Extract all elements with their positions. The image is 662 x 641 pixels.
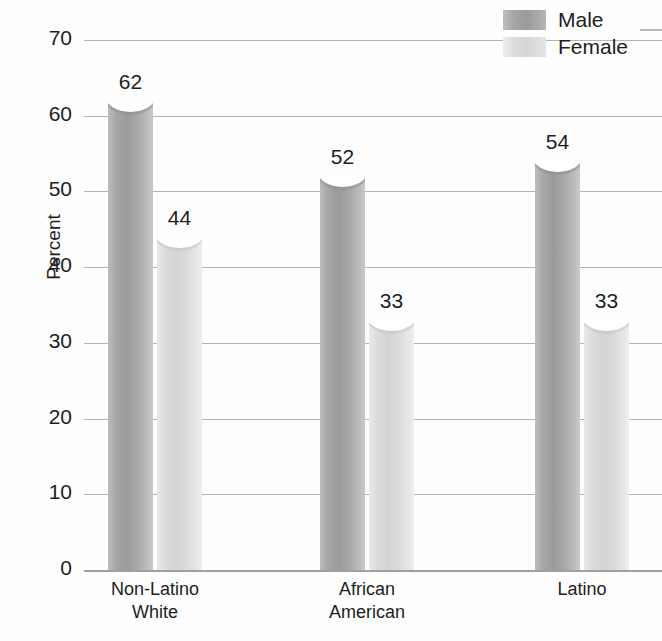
legend: Male Female bbox=[503, 6, 653, 60]
bar-male-2[interactable]: 54 bbox=[535, 161, 580, 570]
bar-value-label: 62 bbox=[119, 70, 142, 94]
bar-male-1[interactable]: 52 bbox=[320, 176, 365, 570]
legend-swatch-male-icon bbox=[503, 10, 546, 30]
bar-value-label: 52 bbox=[331, 145, 354, 169]
bar-cap bbox=[369, 320, 414, 344]
bar-body bbox=[157, 246, 202, 570]
legend-swatch-female-icon bbox=[503, 37, 546, 57]
bar-chart: Percent 706050403020100 624452335433 Non… bbox=[0, 0, 662, 641]
bar-body bbox=[320, 185, 365, 570]
y-axis-tick-label: 60 bbox=[26, 102, 72, 126]
bar-female-0[interactable]: 44 bbox=[157, 237, 202, 570]
y-axis-tick-label: 40 bbox=[26, 253, 72, 277]
x-axis-category-label: Non-Latino White bbox=[75, 578, 235, 624]
plot-area: 624452335433 bbox=[84, 40, 662, 570]
bar-value-label: 54 bbox=[546, 130, 569, 154]
y-axis-tick-label: 30 bbox=[26, 329, 72, 353]
bar-value-label: 33 bbox=[380, 289, 403, 313]
legend-item-female[interactable]: Female bbox=[503, 33, 653, 60]
bar-body bbox=[584, 329, 629, 570]
bar-cap bbox=[108, 101, 153, 125]
gridline bbox=[84, 116, 662, 117]
gridline-stub-right bbox=[640, 29, 662, 31]
y-axis-tick-label: 70 bbox=[26, 26, 72, 50]
gridline bbox=[84, 570, 662, 572]
bar-female-1[interactable]: 33 bbox=[369, 320, 414, 570]
bar-male-0[interactable]: 62 bbox=[108, 101, 153, 570]
y-axis-tick-label: 10 bbox=[26, 480, 72, 504]
bar-body bbox=[535, 170, 580, 570]
legend-label-female: Female bbox=[558, 35, 628, 59]
y-axis-title: Percent bbox=[43, 187, 65, 307]
bar-cap bbox=[584, 320, 629, 344]
x-axis-category-label: Latino bbox=[502, 578, 662, 601]
bar-cap bbox=[320, 176, 365, 200]
y-axis-tick-label: 50 bbox=[26, 177, 72, 201]
bar-body bbox=[108, 110, 153, 570]
bar-value-label: 33 bbox=[595, 289, 618, 313]
bar-value-label: 44 bbox=[168, 206, 191, 230]
bar-cap bbox=[535, 161, 580, 185]
bar-female-2[interactable]: 33 bbox=[584, 320, 629, 570]
legend-label-male: Male bbox=[558, 8, 604, 32]
bar-cap bbox=[157, 237, 202, 261]
bar-body bbox=[369, 329, 414, 570]
x-axis-category-label: African American bbox=[287, 578, 447, 624]
y-axis-tick-label: 0 bbox=[26, 556, 72, 580]
legend-item-male[interactable]: Male bbox=[503, 6, 653, 33]
y-axis-tick-label: 20 bbox=[26, 405, 72, 429]
